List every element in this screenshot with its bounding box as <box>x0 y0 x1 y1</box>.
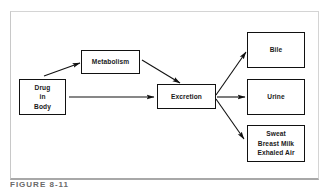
figure-caption: FIGURE 8-11 <box>10 181 69 187</box>
node-bile: Bile <box>247 32 305 68</box>
node-excretion: Excretion <box>157 84 216 109</box>
node-excretion-label: Excretion <box>171 92 202 102</box>
node-other-line-1: Sweat <box>257 129 294 139</box>
node-other-line-2: Breast Milk <box>257 139 294 149</box>
node-drug-line-3: Body <box>34 102 51 112</box>
node-metabolism: Metabolism <box>81 50 140 74</box>
node-metabolism-label: Metabolism <box>92 57 129 67</box>
node-drug-line-2: in <box>34 92 51 102</box>
node-urine-label: Urine <box>267 92 284 102</box>
node-other-line-3: Exhaled Air <box>257 148 294 158</box>
node-drug-in-body: Drug in Body <box>19 79 66 115</box>
node-drug-line-1: Drug <box>34 83 51 93</box>
node-urine: Urine <box>247 79 305 115</box>
node-sweat-breast-milk-exhaled-air: Sweat Breast Milk Exhaled Air <box>247 125 305 162</box>
node-bile-label: Bile <box>270 45 283 55</box>
